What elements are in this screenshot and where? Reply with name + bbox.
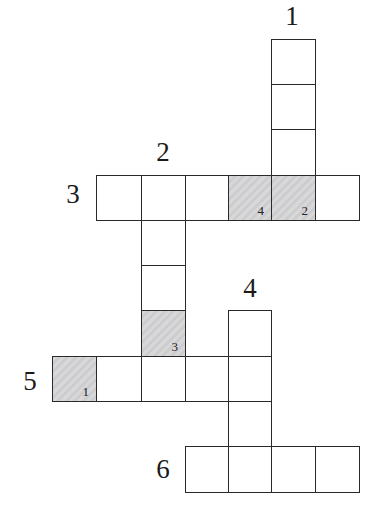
crossword-cell[interactable] xyxy=(141,220,186,266)
crossword-cell[interactable] xyxy=(228,446,272,493)
crossword-cell[interactable] xyxy=(315,446,360,493)
crossword-cell[interactable] xyxy=(96,356,142,402)
crossword-cell[interactable] xyxy=(228,310,272,357)
crossword-cell[interactable] xyxy=(141,175,186,221)
crossword-cell-highlighted[interactable]: 3 xyxy=(141,310,186,357)
crossword-cell[interactable] xyxy=(141,265,186,311)
crossword-cell[interactable] xyxy=(271,39,316,85)
crossword-cell[interactable] xyxy=(271,129,316,176)
clue-number-1: 1 xyxy=(285,3,299,30)
crossword-cell[interactable] xyxy=(315,175,360,221)
crossword-cell[interactable] xyxy=(271,446,316,493)
clue-number-4: 4 xyxy=(243,275,257,302)
keyword-letter-index: 1 xyxy=(83,385,90,398)
keyword-letter-index: 2 xyxy=(302,204,309,217)
clue-number-5: 5 xyxy=(23,368,37,395)
keyword-letter-index: 3 xyxy=(172,340,179,353)
clue-number-2: 2 xyxy=(156,139,170,166)
crossword-cell[interactable] xyxy=(96,175,142,221)
crossword-board: 4231123456 xyxy=(0,0,385,513)
crossword-cell-highlighted[interactable]: 1 xyxy=(52,356,97,402)
clue-number-3: 3 xyxy=(66,181,80,208)
keyword-letter-index: 4 xyxy=(258,204,265,217)
crossword-cell[interactable] xyxy=(185,175,229,221)
crossword-cell[interactable] xyxy=(228,356,272,402)
crossword-cell-highlighted[interactable]: 4 xyxy=(228,175,272,221)
crossword-cell-highlighted[interactable]: 2 xyxy=(271,175,316,221)
crossword-cell[interactable] xyxy=(271,84,316,130)
clue-number-6: 6 xyxy=(156,456,170,483)
crossword-cell[interactable] xyxy=(185,356,229,402)
crossword-cell[interactable] xyxy=(185,446,229,493)
crossword-cell[interactable] xyxy=(228,401,272,447)
crossword-cell[interactable] xyxy=(141,356,186,402)
